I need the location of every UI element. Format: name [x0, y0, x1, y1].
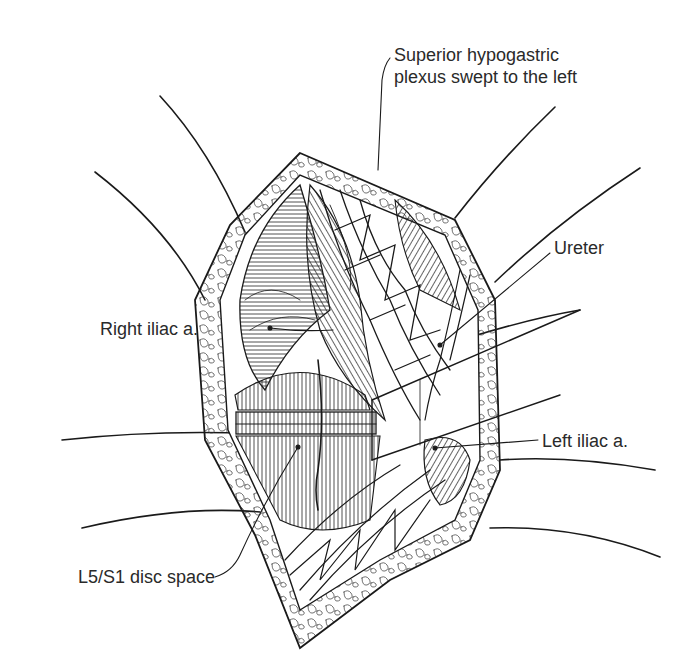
- label-left-iliac: Left iliac a.: [542, 430, 628, 452]
- label-superior-hypogastric-plexus: Superior hypogastric plexus swept to the…: [394, 44, 577, 88]
- label-disc-space: L5/S1 disc space: [78, 566, 215, 588]
- label-line-1: Superior hypogastric: [394, 44, 577, 66]
- label-line-2: plexus swept to the left: [394, 66, 577, 88]
- label-ureter: Ureter: [554, 237, 604, 259]
- label-right-iliac: Right iliac a.: [100, 318, 198, 340]
